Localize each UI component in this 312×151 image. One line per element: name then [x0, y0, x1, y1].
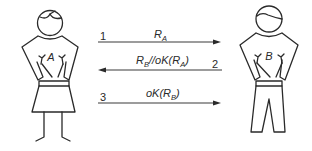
actor-a-figure: A — [22, 11, 78, 142]
actor-b-trousers — [251, 86, 285, 132]
arrowhead-right-icon — [213, 101, 221, 106]
actor-b-right-hand — [278, 54, 284, 63]
actor-a-hair — [40, 14, 61, 19]
actor-b-belt — [256, 81, 282, 86]
message-1: 1 RA — [98, 28, 221, 45]
message-1-step: 1 — [100, 30, 106, 42]
actor-a-head — [38, 11, 63, 36]
arrowhead-left-icon — [98, 68, 106, 73]
message-3-label: oK(RB) — [146, 87, 180, 102]
actor-b-label: B — [265, 50, 272, 62]
actor-a-arms — [42, 64, 63, 77]
protocol-diagram: A B 1 RA 2 RB//oK(RA) 3 oK(RB) — [0, 0, 312, 151]
arrowhead-right-icon — [213, 40, 221, 45]
actor-a-waist — [39, 81, 69, 86]
message-2-step: 2 — [212, 58, 218, 70]
message-1-label: RA — [154, 28, 167, 43]
message-3-step: 3 — [100, 91, 106, 103]
actor-a-label: A — [46, 51, 54, 63]
message-2-label: RB//oK(RA) — [136, 54, 189, 69]
actor-a-right-hand — [59, 55, 65, 64]
actor-b-head — [256, 6, 282, 32]
actor-a-legs — [36, 112, 70, 141]
actor-b-figure: B — [240, 6, 298, 132]
actor-a-left-hand — [39, 55, 45, 64]
actor-a-skirt — [32, 86, 75, 112]
actor-b-arms — [257, 63, 282, 77]
actor-b-hair — [257, 14, 282, 19]
message-3: 3 oK(RB) — [98, 87, 221, 106]
actor-b-left-hand — [255, 54, 261, 63]
message-2: 2 RB//oK(RA) — [98, 54, 222, 73]
